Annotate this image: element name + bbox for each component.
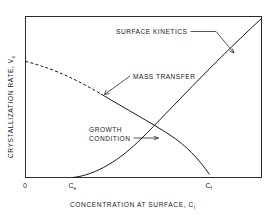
mass-transfer-curve-dashed xyxy=(26,61,102,94)
x-axis-title-base: CONCENTRATION AT SURFACE, C xyxy=(70,201,194,208)
xtick-label-ce: Ce xyxy=(69,182,77,191)
annotation-growth-condition-line2: CONDITION xyxy=(89,135,131,142)
xtick-label-0: 0 xyxy=(23,182,27,189)
chart-canvas: SURFACE KINETICS MASS TRANSFER GROWTH CO… xyxy=(0,0,274,215)
y-axis-title-base: CRYSTALLIZATION RATE, V xyxy=(7,58,14,158)
y-axis-title-sub: c xyxy=(11,55,16,58)
xtick-ce-sub: e xyxy=(74,186,77,191)
mass-transfer-leader xyxy=(105,76,131,95)
surface-kinetics-leader xyxy=(191,32,235,54)
surface-kinetics-curve xyxy=(73,19,262,178)
annotation-growth-condition-line1: GROWTH xyxy=(89,126,122,133)
annotation-mass-transfer: MASS TRANSFER xyxy=(133,73,195,80)
x-axis-title: CONCENTRATION AT SURFACE, Ci xyxy=(70,201,196,210)
annotation-surface-kinetics: SURFACE KINETICS xyxy=(116,28,187,35)
xtick-cf-sub: f xyxy=(211,186,213,191)
xtick-label-cf: Cf xyxy=(206,182,213,191)
crystallization-rate-chart: SURFACE KINETICS MASS TRANSFER GROWTH CO… xyxy=(0,0,274,215)
y-axis-title: CRYSTALLIZATION RATE, Vc xyxy=(7,55,16,158)
plot-frame xyxy=(26,17,262,178)
x-axis-title-sub: i xyxy=(194,205,196,210)
